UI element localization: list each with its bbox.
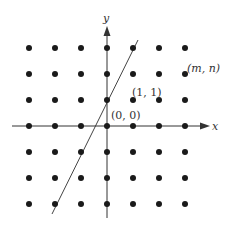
lattice-point <box>52 123 58 129</box>
lattice-point <box>52 71 58 77</box>
lattice-point <box>130 175 136 181</box>
lattice-point <box>130 123 136 129</box>
lattice-diagram: y x (0, 0) (1, 1) (m, n) <box>0 0 228 229</box>
lattice-point <box>156 123 162 129</box>
lattice-point <box>78 201 84 207</box>
lattice-point <box>78 123 84 129</box>
lattice-point <box>78 45 84 51</box>
lattice-point <box>78 97 84 103</box>
lattice-point <box>104 149 110 155</box>
lattice-point <box>104 45 110 51</box>
lattice-point <box>156 201 162 207</box>
point-one-one-label: (1, 1) <box>132 86 162 99</box>
lattice-point <box>26 123 32 129</box>
lattice-point <box>182 201 188 207</box>
y-axis-arrow-icon <box>104 26 111 36</box>
x-axis-label: x <box>212 120 219 133</box>
lattice-point <box>104 175 110 181</box>
lattice-point <box>156 175 162 181</box>
y-axis-label: y <box>102 12 110 25</box>
lattice-point <box>52 149 58 155</box>
lattice-point <box>26 97 32 103</box>
lattice-point <box>104 71 110 77</box>
lattice-point <box>104 97 110 103</box>
lattice-point <box>26 45 32 51</box>
lattice-point <box>78 149 84 155</box>
lattice-line <box>52 40 138 214</box>
lattice-point <box>156 45 162 51</box>
lattice-point <box>26 71 32 77</box>
lattice-point <box>26 175 32 181</box>
lattice-point <box>182 97 188 103</box>
origin-label: (0, 0) <box>111 109 141 122</box>
lattice-point <box>26 149 32 155</box>
lattice-point <box>52 175 58 181</box>
lattice-point <box>52 201 58 207</box>
lattice-point <box>78 71 84 77</box>
x-axis-arrow-icon <box>200 123 210 130</box>
lattice-point <box>182 123 188 129</box>
lattice-point <box>52 97 58 103</box>
lattice-point <box>156 71 162 77</box>
point-mn-label: (m, n) <box>187 62 220 75</box>
lattice-point <box>104 123 110 129</box>
lattice-point <box>182 45 188 51</box>
lattice-point <box>130 149 136 155</box>
lattice-point <box>156 149 162 155</box>
lattice-point <box>78 175 84 181</box>
lattice-point <box>182 175 188 181</box>
lattice-point <box>130 71 136 77</box>
lattice-point <box>52 45 58 51</box>
lattice-point <box>182 149 188 155</box>
lattice-point <box>130 201 136 207</box>
lattice-point <box>104 201 110 207</box>
lattice-point <box>26 201 32 207</box>
lattice-point <box>130 45 136 51</box>
